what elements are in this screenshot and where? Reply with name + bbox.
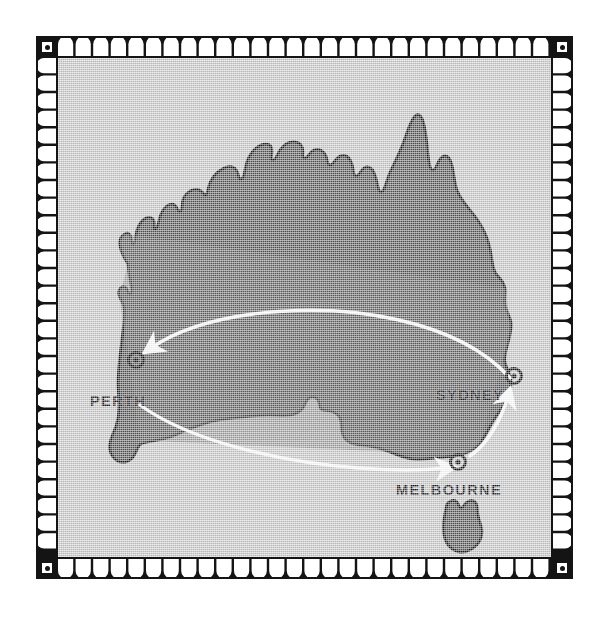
corner-dot-icon [45,566,50,571]
frame-border-bottom [58,559,551,577]
poster-canvas: PERTH SYDNEY MELBOURNE [0,0,607,620]
corner-dot-icon [560,45,565,50]
frame-border-left [38,58,56,557]
decorative-frame: PERTH SYDNEY MELBOURNE [36,36,573,579]
city-label-melbourne: MELBOURNE [396,482,502,498]
frame-corner-top-right [554,39,570,55]
landmass-tasmania [443,501,482,553]
map-plate: PERTH SYDNEY MELBOURNE [58,58,551,557]
corner-dot-icon [45,45,50,50]
landmass-australia-mainland [110,115,512,463]
frame-corner-bottom-left [39,560,55,576]
frame-border-top [58,38,551,56]
corner-dot-icon [560,566,565,571]
frame-corner-bottom-right [554,560,570,576]
frame-border-right [553,58,571,557]
city-label-perth: PERTH [90,393,146,409]
city-label-sydney: SYDNEY [436,387,504,403]
frame-corner-top-left [39,39,55,55]
